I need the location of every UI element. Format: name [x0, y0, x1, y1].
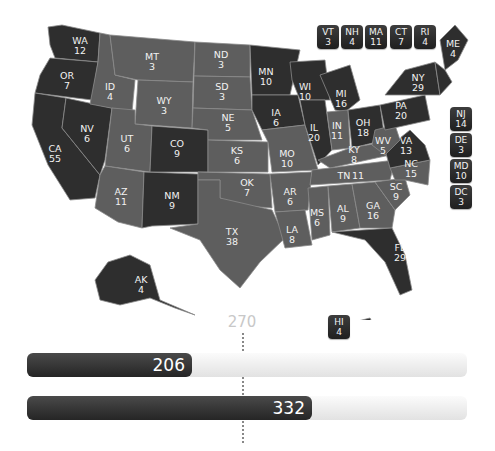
chip-ri[interactable]: RI4	[414, 25, 436, 49]
label-ut: UT6	[121, 134, 134, 154]
label-ok: OK7	[240, 178, 254, 198]
label-co: CO9	[170, 139, 184, 159]
threshold-label: 270	[228, 313, 257, 331]
threshold-line	[242, 333, 244, 443]
chip-nj[interactable]: NJ14	[450, 107, 472, 131]
label-ar: AR6	[283, 187, 296, 207]
chip-ma[interactable]: MA11	[365, 25, 387, 49]
label-wy: WY3	[156, 96, 171, 116]
label-al: AL9	[337, 204, 349, 224]
label-ia: IA6	[271, 108, 280, 128]
label-ny: NY29	[412, 73, 425, 93]
bar-fill-bottom: 332	[27, 396, 312, 420]
label-or: OR7	[60, 71, 74, 91]
state-hi[interactable]	[358, 318, 375, 320]
label-ga: GA16	[366, 201, 380, 221]
bar-track-top: 206	[27, 353, 467, 377]
label-sc: SC9	[390, 182, 403, 202]
bar-track-bottom: 332	[27, 396, 467, 420]
label-id: ID4	[105, 82, 115, 102]
label-tn: TN	[338, 171, 351, 181]
label-mo: MO10	[279, 149, 295, 169]
label-nm: NM9	[164, 191, 179, 211]
label-mi: MI16	[335, 89, 347, 109]
label-ms: MS6	[310, 208, 324, 228]
label-mt: MT3	[145, 52, 159, 72]
label-nd: ND3	[214, 50, 228, 70]
label-ne: NE5	[221, 113, 234, 133]
chip-ct[interactable]: CT7	[390, 25, 412, 49]
label-sd: SD3	[215, 82, 228, 102]
label-fl: FL29	[394, 243, 406, 263]
label-tn-ev: 11	[352, 171, 364, 181]
label-az: AZ11	[114, 187, 127, 207]
chip-de[interactable]: DE3	[450, 133, 472, 157]
chip-dc[interactable]: DC3	[450, 185, 472, 209]
chip-hi[interactable]: HI4	[328, 315, 350, 339]
bar-value-bottom: 332	[273, 398, 305, 418]
label-va: VA13	[400, 136, 412, 156]
label-wi: WI10	[299, 82, 311, 102]
label-la: LA8	[286, 225, 298, 245]
label-ca: CA55	[48, 144, 61, 164]
label-in: IN11	[331, 121, 343, 141]
label-nc: NC15	[404, 159, 418, 179]
bar-value-top: 206	[153, 355, 185, 375]
label-mn: MN10	[258, 67, 273, 87]
label-ks: KS6	[231, 146, 243, 166]
label-wv: WV5	[375, 136, 391, 156]
bar-fill-top: 206	[27, 353, 192, 377]
label-oh: OH18	[356, 118, 371, 138]
label-tx: TX38	[226, 227, 238, 247]
chip-nh[interactable]: NH4	[341, 25, 363, 49]
label-me: ME4	[446, 39, 460, 59]
chip-md[interactable]: MD10	[450, 159, 472, 183]
label-ky: KY8	[348, 145, 360, 165]
label-pa: PA20	[395, 101, 407, 121]
label-ak: AK4	[135, 275, 148, 295]
chip-vt[interactable]: VT3	[317, 25, 339, 49]
label-wa: WA12	[72, 36, 87, 56]
label-nv: NV6	[80, 124, 94, 144]
label-il: IL20	[308, 123, 320, 143]
